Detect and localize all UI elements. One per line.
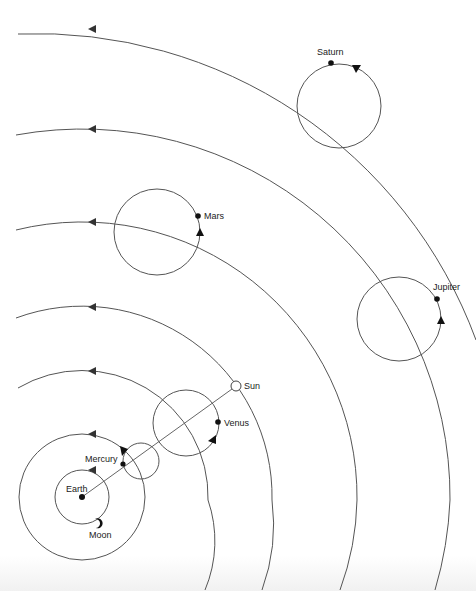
venus-deferent-arrow-icon — [88, 367, 96, 375]
mercury-dot — [120, 461, 125, 466]
mars-epicycle-arrow-icon — [196, 228, 204, 236]
earth-label: Earth — [66, 484, 88, 494]
sun-deferent-arrow-icon — [88, 303, 96, 311]
saturn-label: Saturn — [317, 47, 344, 57]
sun-label: Sun — [244, 381, 260, 391]
jupiter-deferent-arrow-icon — [88, 125, 96, 133]
mars-deferent-arrow-icon — [88, 218, 96, 226]
jupiter-epicycle-arrow-icon — [437, 316, 445, 324]
diagram-canvas — [0, 0, 476, 591]
venus-epicycle — [153, 390, 219, 456]
venus-deferent — [18, 371, 215, 590]
saturn-epicycle — [297, 64, 381, 148]
mercury-label: Mercury — [85, 454, 118, 464]
saturn-deferent — [18, 34, 476, 340]
venus-label: Venus — [224, 418, 249, 428]
venus-dot — [215, 419, 221, 425]
mars-deferent — [16, 222, 357, 590]
jupiter-deferent — [16, 129, 450, 590]
moon-orbit-arrow-icon — [88, 466, 96, 474]
mars-dot — [195, 213, 201, 219]
sun-icon — [231, 381, 241, 391]
saturn-dot — [328, 60, 334, 66]
sun-deferent — [16, 306, 274, 590]
mercury-deferent-arrow-icon — [88, 430, 96, 438]
earth-dot — [79, 494, 85, 500]
jupiter-dot — [434, 296, 440, 302]
moon-label: Moon — [89, 530, 112, 540]
jupiter-label: Jupiter — [433, 282, 460, 292]
saturn-deferent-arrow-icon — [88, 25, 96, 33]
sun-earth-line — [82, 389, 232, 497]
mars-label: Mars — [204, 211, 224, 221]
jupiter-epicycle — [357, 277, 441, 361]
geocentric-diagram: Saturn Mars Jupiter Sun Venus Mercury Ea… — [0, 0, 476, 591]
